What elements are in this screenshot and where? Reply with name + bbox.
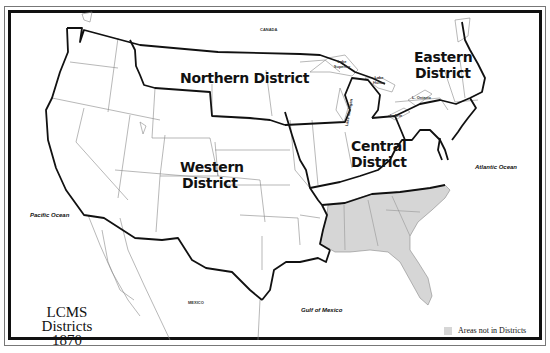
label-eastern-district-line1: Eastern [414, 50, 472, 64]
label-western-district-line1: Western [180, 160, 244, 174]
label-gulf-of-mexico: Gulf of Mexico [301, 307, 342, 313]
label-lake-superior: Lake Superior [331, 59, 353, 69]
legend-swatch [444, 327, 452, 335]
label-mexico: MEXICO [188, 300, 204, 305]
label-central-district-line1: Central [351, 139, 406, 153]
mexico-lines [88, 215, 262, 340]
label-atlantic-ocean: Atlantic Ocean [475, 164, 517, 170]
legend-label: Areas not in Districts [458, 326, 526, 335]
legend: Areas not in Districts [444, 326, 526, 335]
map-title-line1: LCMS [36, 305, 98, 319]
label-northern-district: Northern District [180, 71, 309, 85]
map-title: LCMS Districts 1870 [36, 305, 98, 347]
label-pacific-ocean: Pacific Ocean [30, 212, 69, 218]
map-title-line3: 1870 [36, 333, 98, 347]
label-lake-ontario: L. Ontario [412, 95, 431, 100]
map-title-line2: Districts [36, 319, 98, 333]
label-canada: CANADA [260, 27, 277, 32]
label-lake-huron: Lake Huron [370, 75, 388, 85]
label-lake-erie: L. Erie [390, 113, 402, 118]
label-central-district-line2: District [351, 155, 407, 169]
label-western-district-line2: District [182, 176, 238, 190]
label-eastern-district-line2: District [415, 66, 471, 80]
